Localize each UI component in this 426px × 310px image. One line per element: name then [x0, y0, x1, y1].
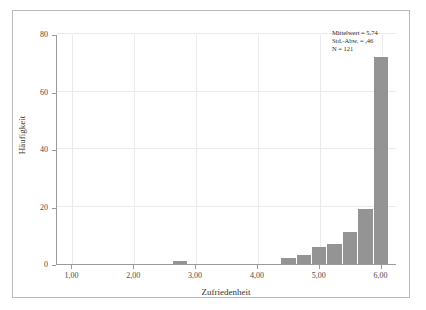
y-tick-mark [52, 93, 56, 94]
gridline-x-5 [320, 35, 321, 264]
stat-sd: Std.-Abw. = ,46 [332, 37, 378, 45]
x-axis-title: Zufriedenheit [56, 287, 396, 297]
histogram-figure: 020406080 1,002,003,004,005,006,00 Zufri… [0, 0, 426, 310]
x-tick-mark [195, 265, 196, 269]
gridline-y-40 [57, 148, 396, 149]
histogram-bar [374, 57, 388, 264]
stat-n: N = 121 [332, 45, 378, 53]
histogram-bar [327, 244, 341, 264]
x-tick-label: 3,00 [172, 272, 218, 280]
y-tick-label: 20 [12, 204, 48, 212]
stat-mean: Mittelwert = 5,74 [332, 29, 378, 37]
y-tick-label: 80 [12, 31, 48, 39]
gridline-x-1 [72, 35, 73, 264]
y-tick-mark [52, 265, 56, 266]
histogram-bar [173, 261, 187, 264]
y-tick-mark [52, 150, 56, 151]
gridline-y-60 [57, 91, 396, 92]
x-tick-label: 1,00 [48, 272, 94, 280]
gridline-x-4 [258, 35, 259, 264]
x-tick-mark [71, 265, 72, 269]
x-tick-label: 6,00 [358, 272, 404, 280]
x-tick-label: 5,00 [296, 272, 342, 280]
histogram-bar [312, 247, 326, 264]
gridline-x-2 [134, 35, 135, 264]
x-tick-label: 4,00 [234, 272, 280, 280]
gridline-x-3 [196, 35, 197, 264]
x-tick-mark [381, 265, 382, 269]
x-tick-label: 2,00 [110, 272, 156, 280]
histogram-bar [297, 255, 311, 264]
y-axis-title: Häufigkeit [17, 85, 27, 185]
y-tick-mark [52, 35, 56, 36]
x-tick-mark [257, 265, 258, 269]
plot-area [56, 35, 396, 265]
histogram-bar [343, 232, 357, 264]
histogram-bar [358, 209, 372, 264]
y-tick-mark [52, 208, 56, 209]
gridline-y-20 [57, 206, 396, 207]
x-tick-mark [319, 265, 320, 269]
y-tick-label: 0 [12, 261, 48, 269]
statistics-annotation: Mittelwert = 5,74 Std.-Abw. = ,46 N = 12… [332, 29, 378, 54]
histogram-bar [281, 258, 295, 264]
x-tick-mark [133, 265, 134, 269]
